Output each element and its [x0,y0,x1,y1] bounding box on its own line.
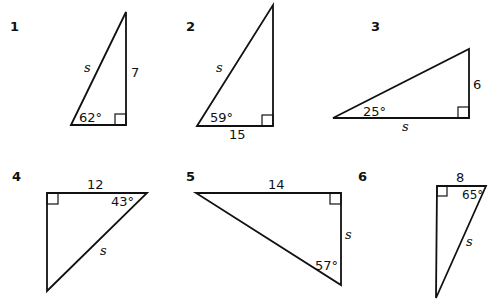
unknown-side-label: s [402,119,409,134]
unknown-side-label: s [100,243,107,258]
angle-label: 57° [315,258,338,273]
problem-6: 6 8 65° s [358,169,486,298]
problem-number: 1 [10,19,19,34]
right-angle-marker [437,186,447,196]
worksheet-figures: 1 s 7 62° 2 s 59° 15 3 6 25° s 4 12 43° … [0,0,496,304]
right-triangle [197,5,273,126]
known-side-label: 14 [268,177,285,192]
angle-label: 59° [210,110,233,125]
problem-number: 6 [358,169,367,184]
right-angle-marker [458,107,469,118]
unknown-side-label: s [466,234,473,249]
angle-label: 65° [462,188,483,202]
problem-number: 2 [186,19,195,34]
right-angle-marker [47,193,58,204]
problem-4: 4 12 43° s [12,169,147,291]
unknown-side-label: s [84,60,91,75]
known-side-label: 12 [87,177,104,192]
right-triangle [436,186,486,298]
problem-number: 3 [371,19,380,34]
angle-label: 43° [111,194,134,209]
problem-number: 4 [12,169,21,184]
problem-5: 5 14 s 57° [186,169,352,285]
problem-3: 3 6 25° s [333,19,481,134]
right-triangle [333,49,469,118]
known-side-label: 15 [229,127,246,142]
angle-label: 25° [363,104,386,119]
known-side-label: 6 [473,77,481,92]
known-side-label: 8 [456,170,464,185]
right-angle-marker [115,114,126,125]
unknown-side-label: s [216,60,223,75]
problem-2: 2 s 59° 15 [186,5,273,142]
angle-label: 62° [79,110,102,125]
problem-number: 5 [186,169,195,184]
right-triangle [71,12,126,125]
right-angle-marker [262,115,273,126]
unknown-side-label: s [345,227,352,242]
problem-1: 1 s 7 62° [10,12,139,125]
known-side-label: 7 [131,65,139,80]
right-angle-marker [330,193,341,204]
